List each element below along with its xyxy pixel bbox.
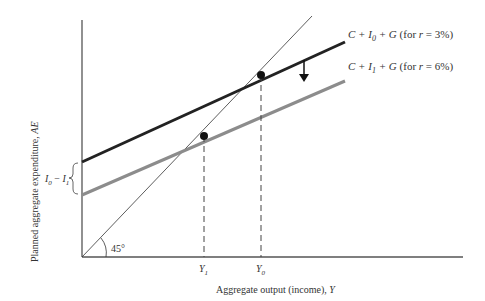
curve-ae0-label: C + I0 + G (for r = 3%) bbox=[348, 28, 453, 43]
y-axis-label: Planned aggregate expenditure, AE bbox=[29, 122, 40, 263]
curve-ae1 bbox=[82, 81, 345, 195]
bracket-icon bbox=[69, 163, 78, 194]
angle-label: 45° bbox=[111, 243, 125, 254]
angle-arc bbox=[101, 238, 106, 257]
x-axis-label: Aggregate output (income), Y bbox=[216, 284, 336, 296]
curve-ae1-label: C + I1 + G (for r = 6%) bbox=[348, 60, 453, 75]
x-tick-y0: Y0 bbox=[256, 263, 266, 277]
down-arrow-icon bbox=[299, 74, 309, 82]
keynesian-cross-diagram: 45° C + I0 + G (for r = 3%) C + I1 + G (… bbox=[0, 0, 485, 301]
bracket-label: I0 − I1 bbox=[44, 173, 69, 187]
forty-five-degree-line bbox=[82, 16, 312, 257]
x-tick-y1: Y1 bbox=[199, 263, 208, 277]
equilibrium-point-y1 bbox=[200, 132, 208, 140]
curve-ae0 bbox=[82, 42, 345, 162]
equilibrium-point-y0 bbox=[257, 71, 265, 79]
